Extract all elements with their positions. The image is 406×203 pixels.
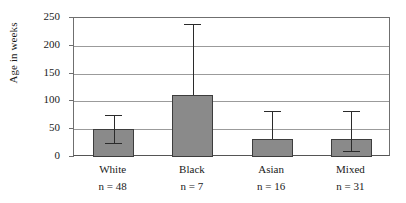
x-axis-category-black: Blackn = 7 [152,162,231,193]
category-sample-size-black: n = 7 [152,179,231,193]
gridline-200 [74,46,389,47]
bar-asian [252,139,293,157]
error-bar-upper-cap-mixed [343,111,360,112]
error-bar-stem-white [114,115,115,143]
y-tick-label-100: 100 [20,94,60,105]
category-label-white: White [73,162,152,176]
y-tick-label-0: 0 [20,150,60,161]
category-sample-size-white: n = 48 [73,179,152,193]
x-axis-category-mixed: Mixedn = 31 [311,162,390,193]
error-bar-lower-cap-white [105,143,122,144]
error-bar-stem-asian [272,111,273,138]
y-tick-label-200: 200 [20,39,60,50]
error-bar-stem-black [193,24,194,95]
error-bar-stem-mixed [351,111,352,151]
y-tick-label-250: 250 [20,11,60,22]
category-sample-size-mixed: n = 31 [311,179,390,193]
error-bar-upper-cap-white [105,115,122,116]
error-bar-lower-cap-mixed [343,151,360,152]
gridline-100 [74,101,389,102]
category-label-mixed: Mixed [311,162,390,176]
category-sample-size-asian: n = 16 [232,179,311,193]
category-label-black: Black [152,162,231,176]
error-bar-upper-cap-black [184,24,201,25]
error-bar-upper-cap-asian [264,111,281,112]
y-tick-label-50: 50 [20,122,60,133]
bar-black [172,95,213,157]
x-axis-category-asian: Asiann = 16 [232,162,311,193]
plot-area [73,17,390,156]
chart-figure: Age in weeks 050100150200250 Whiten = 48… [0,0,406,203]
y-axis-tick-group: 050100150200250 [25,0,69,203]
gridline-150 [74,74,389,75]
x-axis-category-white: Whiten = 48 [73,162,152,193]
y-tick-mark-0 [69,156,74,157]
category-label-asian: Asian [232,162,311,176]
y-tick-label-150: 150 [20,67,60,78]
